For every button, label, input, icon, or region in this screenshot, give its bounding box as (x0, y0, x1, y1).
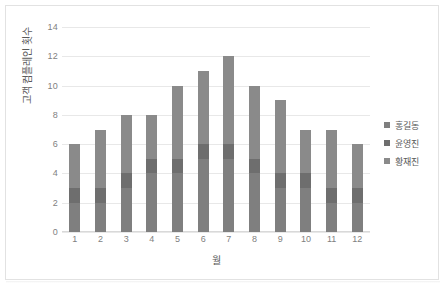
bar-segment[interactable] (198, 159, 209, 232)
bar-segment[interactable] (300, 173, 311, 188)
stacked-bar[interactable] (300, 130, 311, 232)
x-axis-tick-label: 2 (88, 234, 114, 248)
bar-segment[interactable] (352, 144, 363, 188)
legend-swatch-icon (384, 158, 390, 164)
bar-segment[interactable] (352, 188, 363, 203)
x-axis-tick-label: 6 (190, 234, 216, 248)
bar-slot (165, 27, 191, 232)
y-axis-tick-label: 14 (18, 22, 58, 32)
bar-segment[interactable] (121, 115, 132, 174)
y-axis-tick-label: 10 (18, 81, 58, 91)
bar-segment[interactable] (95, 203, 106, 232)
x-axis-tick-label: 3 (113, 234, 139, 248)
chart-legend: 홍길동윤영진황재진 (384, 118, 440, 172)
legend-item[interactable]: 홍길동 (384, 118, 440, 132)
legend-item[interactable]: 윤영진 (384, 136, 440, 150)
bar-segment[interactable] (223, 159, 234, 232)
legend-label: 황재진 (395, 155, 419, 168)
chart-frame-shadow (6, 281, 440, 283)
x-axis-tick-label: 8 (242, 234, 268, 248)
stacked-bar[interactable] (249, 86, 260, 232)
x-axis-tick-label: 7 (216, 234, 242, 248)
chart-container: 고객 컴플레인 횟수 14121086420 123456789101112 월… (0, 0, 444, 295)
bar-segment[interactable] (172, 173, 183, 232)
bar-segment[interactable] (172, 86, 183, 159)
bar-segment[interactable] (146, 159, 157, 174)
bar-segment[interactable] (249, 173, 260, 232)
bar-segment[interactable] (223, 144, 234, 159)
bar-segment[interactable] (300, 130, 311, 174)
legend-swatch-icon (384, 122, 390, 128)
bar-segment[interactable] (326, 203, 337, 232)
legend-label: 윤영진 (395, 137, 419, 150)
legend-item[interactable]: 황재진 (384, 154, 440, 168)
gridline (62, 232, 370, 233)
bar-segment[interactable] (275, 100, 286, 173)
stacked-bar[interactable] (326, 130, 337, 232)
stacked-bar[interactable] (352, 144, 363, 232)
bar-segment[interactable] (146, 115, 157, 159)
bar-slot (242, 27, 268, 232)
y-axis-tick-label: 8 (18, 110, 58, 120)
bar-segment[interactable] (121, 173, 132, 188)
y-axis-tick-label: 6 (18, 139, 58, 149)
bar-segment[interactable] (69, 144, 80, 188)
x-axis-tick-label: 10 (293, 234, 319, 248)
legend-label: 홍길동 (395, 119, 419, 132)
bar-slot (344, 27, 370, 232)
legend-swatch-icon (384, 140, 390, 146)
bar-segment[interactable] (69, 203, 80, 232)
bar-segment[interactable] (69, 188, 80, 203)
plot-area (62, 27, 370, 232)
bar-segment[interactable] (146, 173, 157, 232)
bar-segment[interactable] (95, 130, 106, 189)
x-axis-tick-label: 9 (267, 234, 293, 248)
bar-slot (216, 27, 242, 232)
stacked-bar[interactable] (223, 56, 234, 232)
bar-segment[interactable] (249, 159, 260, 174)
bar-segment[interactable] (300, 188, 311, 232)
stacked-bar[interactable] (69, 144, 80, 232)
bar-slot (293, 27, 319, 232)
bar-slot (88, 27, 114, 232)
x-axis-tick-label: 11 (319, 234, 345, 248)
stacked-bar[interactable] (95, 130, 106, 232)
y-axis-ticks: 14121086420 (14, 27, 58, 232)
stacked-bar[interactable] (198, 71, 209, 232)
y-axis-tick-label: 12 (18, 51, 58, 61)
y-axis-tick-label: 4 (18, 168, 58, 178)
x-axis-tick-label: 5 (165, 234, 191, 248)
bar-segment[interactable] (172, 159, 183, 174)
bar-segment[interactable] (198, 71, 209, 144)
bar-series-group (62, 27, 370, 232)
bar-segment[interactable] (275, 188, 286, 232)
bar-segment[interactable] (326, 188, 337, 203)
x-axis-ticks: 123456789101112 (62, 234, 370, 248)
y-axis-tick-label: 2 (18, 198, 58, 208)
bar-slot (139, 27, 165, 232)
x-axis-tick-label: 4 (139, 234, 165, 248)
x-axis-title: 월 (62, 252, 370, 267)
bar-segment[interactable] (223, 56, 234, 144)
bar-slot (267, 27, 293, 232)
x-axis-tick-label: 12 (344, 234, 370, 248)
bar-slot (113, 27, 139, 232)
y-axis-tick-label: 0 (18, 227, 58, 237)
bar-segment[interactable] (249, 86, 260, 159)
bar-segment[interactable] (352, 203, 363, 232)
stacked-bar[interactable] (275, 100, 286, 232)
stacked-bar[interactable] (146, 115, 157, 232)
bar-slot (190, 27, 216, 232)
bar-slot (319, 27, 345, 232)
bar-segment[interactable] (275, 173, 286, 188)
bar-slot (62, 27, 88, 232)
bar-segment[interactable] (326, 130, 337, 189)
stacked-bar[interactable] (172, 86, 183, 232)
x-axis-tick-label: 1 (62, 234, 88, 248)
bar-segment[interactable] (198, 144, 209, 159)
stacked-bar[interactable] (121, 115, 132, 232)
bar-segment[interactable] (95, 188, 106, 203)
bar-segment[interactable] (121, 188, 132, 232)
